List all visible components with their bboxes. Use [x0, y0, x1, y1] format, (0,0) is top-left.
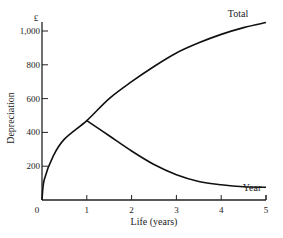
- x-tick-label: 1: [85, 205, 90, 215]
- x-tick-label: 5: [264, 205, 269, 215]
- x-tick-label: 0: [35, 205, 40, 215]
- y-tick-label: 400: [27, 127, 41, 137]
- x-tick-label: 3: [174, 205, 179, 215]
- axes: [42, 22, 266, 200]
- y-tick-label: 800: [27, 60, 41, 70]
- series-lines: [42, 23, 266, 200]
- y-axis-label: Depreciation: [5, 92, 16, 144]
- y-tick-label: 600: [27, 94, 41, 104]
- y-tick-label: 200: [27, 161, 41, 171]
- x-tick-label: 2: [129, 205, 134, 215]
- x-axis-label: Life (years): [131, 216, 178, 228]
- x-tick-label: 4: [219, 205, 224, 215]
- series-line-year: [87, 121, 266, 188]
- series-label-year: Year: [243, 182, 262, 193]
- series-line-total: [42, 23, 266, 200]
- depreciation-chart: 0123452004006008001,000 Depreciation Lif…: [0, 0, 283, 238]
- series-label-total: Total: [228, 8, 249, 19]
- y-tick-label: 1,000: [20, 26, 41, 36]
- currency-label: £: [34, 13, 39, 23]
